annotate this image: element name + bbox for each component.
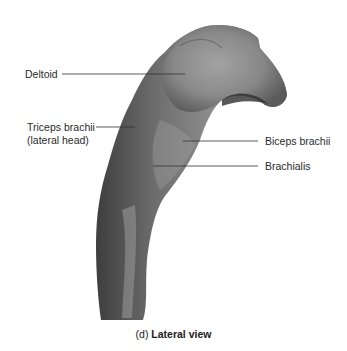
figure-caption: (d) Lateral view [0,328,347,340]
caption-title: Lateral view [151,328,211,340]
label-deltoid: Deltoid [25,68,58,80]
label-triceps-lateral-head: (lateral head) [27,134,89,146]
label-triceps-brachii: Triceps brachii [27,121,95,133]
label-biceps-brachii: Biceps brachii [265,135,330,147]
anatomy-figure: Deltoid Triceps brachii (lateral head) B… [0,0,347,351]
arm-illustration [0,0,347,351]
label-brachialis: Brachialis [265,160,311,172]
caption-prefix: (d) [136,328,149,340]
